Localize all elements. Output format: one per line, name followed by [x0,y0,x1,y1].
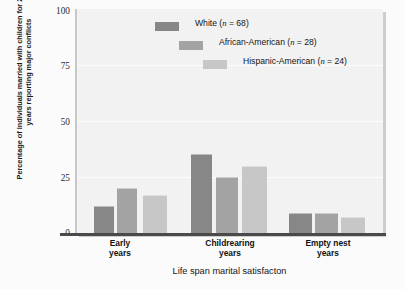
y-tick-75: 75 [42,61,70,71]
x-group-label-early-years: Early years [80,238,160,259]
legend-label-african-american-text: African-American [219,37,285,47]
bar-childrearing-african-american [216,177,238,234]
bar-early-white [94,206,114,234]
legend-label-hispanic-american: Hispanic-American (n = 24) [243,56,347,66]
y-axis-spine [75,9,77,234]
legend-label-white-text: White [195,18,217,28]
legend-label-hispanic-american-n: 24 [334,56,344,66]
legend-item-african-american: African-American (n = 28) [155,37,395,56]
y-tick-100: 100 [42,6,70,16]
bar-empty-nest-african-american [315,213,338,234]
x-group-label-early-years-line2: years [80,248,160,258]
x-group-label-childrearing-years-line1: Childrearing [190,238,270,248]
legend-item-white: White (n = 68) [155,18,395,37]
gridline-50 [76,121,383,122]
bar-childrearing-hispanic-american [242,166,267,235]
legend-label-white-n: 68 [236,18,246,28]
bar-chart-figure: Percentage of individuals married with c… [0,0,405,289]
x-group-label-empty-nest-years-line1: Empty nest [288,238,368,248]
bar-childrearing-white [191,154,212,234]
legend-label-african-american-n: 28 [304,37,314,47]
x-axis-title: Life span marital satisfacton [76,266,383,276]
bar-early-hispanic-american [143,195,167,234]
legend-swatch-african-american [179,41,203,50]
x-group-label-childrearing-years: Childrearing years [190,238,270,259]
y-tick-50: 50 [42,117,70,127]
legend-label-african-american: African-American (n = 28) [219,37,317,47]
legend-item-hispanic-american: Hispanic-American (n = 24) [155,56,395,75]
x-group-label-childrearing-years-line2: years [190,248,270,258]
legend-swatch-hispanic-american [203,60,227,69]
bar-empty-nest-white [289,213,312,234]
legend-label-white: White (n = 68) [195,18,249,28]
x-group-label-early-years-line1: Early [80,238,160,248]
x-axis-spine [60,233,386,236]
y-axis-tick-labels: 100 75 50 25 0 [38,0,70,289]
x-group-label-empty-nest-years: Empty nest years [288,238,368,259]
legend-label-hispanic-american-text: Hispanic-American [243,56,315,66]
bar-empty-nest-hispanic-american [341,217,365,234]
x-group-label-empty-nest-years-line2: years [288,248,368,258]
bar-early-african-american [117,188,137,234]
legend-swatch-white [155,22,179,31]
chart-legend: White (n = 68) African-American (n = 28)… [155,18,395,75]
y-tick-25: 25 [42,173,70,183]
